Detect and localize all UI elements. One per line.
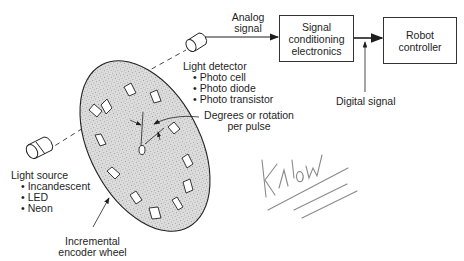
signal-conditioning-box: Signal conditioning electronics: [279, 15, 354, 62]
source-item: Neon: [11, 203, 90, 214]
signal-box-line3: electronics: [288, 45, 344, 57]
signal-box-line1: Signal: [288, 21, 344, 33]
robot-controller-box: Robot controller: [383, 17, 457, 64]
robot-box-line2: controller: [398, 41, 441, 53]
light-source-icon: [24, 137, 53, 161]
digital-signal-label: Digital signal: [336, 96, 396, 107]
light-source-label: Light source Incandescent LED Neon: [11, 170, 90, 214]
detector-item: Photo transistor: [183, 94, 273, 105]
wheel-leader: [93, 198, 109, 227]
wheel-hub: [139, 146, 145, 155]
analog-label-line2: signal: [228, 23, 268, 34]
analog-signal-label: Analog signal: [228, 12, 268, 34]
light-detector-label: Light detector Photo cell Photo diode Ph…: [183, 61, 273, 105]
encoder-diagram: Analog signal Signal conditioning electr…: [0, 0, 464, 261]
robot-box-line1: Robot: [398, 29, 441, 41]
signal-box-line2: conditioning: [288, 33, 344, 45]
encoder-wheel-label: Incremental encoder wheel: [55, 236, 130, 258]
handwritten-know: [262, 155, 357, 218]
degrees-line2: per pulse: [199, 121, 299, 132]
light-detector-icon: [184, 33, 207, 53]
wheel-label-line2: encoder wheel: [55, 247, 130, 258]
degrees-label: Degrees or rotation per pulse: [199, 110, 299, 132]
